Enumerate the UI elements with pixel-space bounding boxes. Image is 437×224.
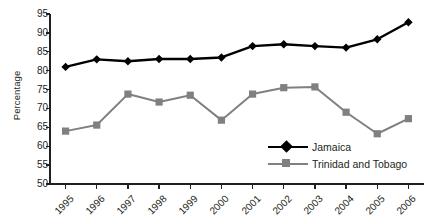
legend-item-jamaica: Jamaica (268, 138, 428, 155)
data-point-jamaica-2003 (311, 42, 319, 50)
data-point-jamaica-1996 (93, 55, 101, 63)
series-line-jamaica (66, 22, 409, 67)
data-point-trinidad-and-tobago-2005 (374, 130, 381, 137)
data-point-trinidad-and-tobago-1999 (187, 92, 194, 99)
data-point-trinidad-and-tobago-2006 (405, 115, 412, 122)
data-point-trinidad-and-tobago-2000 (218, 117, 225, 124)
legend-marker-diamond-icon (268, 140, 308, 154)
data-point-jamaica-1995 (61, 63, 69, 71)
legend-item-trinidad-and-tobago: Trinidad and Tobago (268, 155, 428, 172)
data-point-trinidad-and-tobago-2002 (280, 84, 287, 91)
data-point-jamaica-1998 (155, 55, 163, 63)
data-point-trinidad-and-tobago-2003 (311, 83, 318, 90)
series-line-trinidad-and-tobago (66, 87, 409, 134)
data-point-jamaica-2002 (280, 40, 288, 48)
plot-area (0, 0, 437, 224)
data-point-jamaica-2000 (217, 53, 225, 61)
legend-label-jamaica: Jamaica (308, 141, 351, 153)
legend: Jamaica Trinidad and Tobago (268, 138, 428, 172)
data-point-trinidad-and-tobago-2001 (249, 90, 256, 97)
legend-marker-square-icon (268, 157, 308, 171)
data-point-trinidad-and-tobago-2004 (342, 109, 349, 116)
data-point-trinidad-and-tobago-1996 (93, 121, 100, 128)
series-lines (61, 18, 412, 137)
data-point-jamaica-2001 (248, 42, 256, 50)
data-point-trinidad-and-tobago-1995 (62, 128, 69, 135)
line-chart: Percentage 50556065707580859095 19951996… (0, 0, 437, 224)
data-point-jamaica-1997 (124, 57, 132, 65)
data-point-jamaica-1999 (186, 55, 194, 63)
data-point-trinidad-and-tobago-1997 (124, 90, 131, 97)
data-point-trinidad-and-tobago-1998 (155, 98, 162, 105)
data-point-jamaica-2004 (342, 43, 350, 51)
legend-label-trinidad-and-tobago: Trinidad and Tobago (308, 158, 407, 170)
